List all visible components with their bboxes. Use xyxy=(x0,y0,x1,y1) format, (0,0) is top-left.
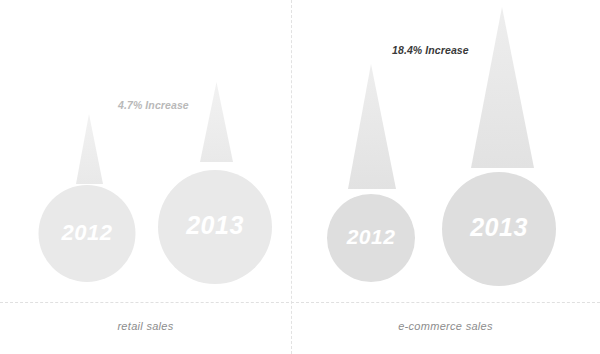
ecom-2012-year-label: 2012 xyxy=(346,225,396,248)
ecom-2013-year-label: 2013 xyxy=(469,213,528,241)
retail-group-label: retail sales xyxy=(0,320,291,332)
panel-divider-vertical xyxy=(291,0,292,354)
retail-increase-callout: 4.7% Increase xyxy=(118,99,189,111)
retail-2013-year-label: 2013 xyxy=(185,211,244,239)
retail-2012-year-label: 2012 xyxy=(61,220,113,245)
ecommerce-increase-callout: 18.4% Increase xyxy=(392,44,469,56)
ecommerce-group-label: e-commerce sales xyxy=(291,320,600,332)
infographic-canvas: 2012 2013 2012 2013 4.7% Increase 18.4% … xyxy=(0,0,600,354)
chart-shapes: 2012 2013 2012 2013 xyxy=(0,0,600,354)
baseline-divider-horizontal xyxy=(0,302,600,303)
